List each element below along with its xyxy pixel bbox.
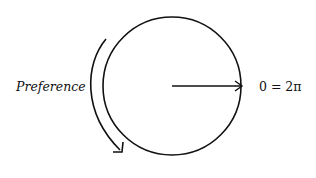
preference-label: Preference <box>16 79 86 94</box>
zero-angle-label: 0 = 2π <box>259 79 302 94</box>
preference-curved-arrow <box>91 39 120 150</box>
